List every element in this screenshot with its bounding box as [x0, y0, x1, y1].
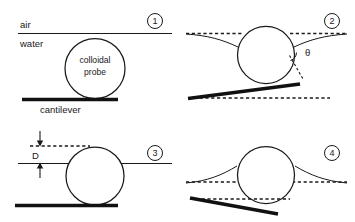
colloidal-probe-figure: air water colloidal probe cantilever 1: [0, 0, 355, 222]
panel-2: θ 2: [186, 14, 347, 99]
panel4-number-text: 4: [329, 148, 334, 158]
panel-4: 4: [186, 146, 347, 215]
panel-3: D 3: [15, 131, 172, 206]
panel3-distance-arrow-top: [37, 131, 43, 147]
panel2-number-badge: 2: [325, 14, 340, 29]
panel2-colloidal-probe-sphere: [238, 27, 295, 84]
panel2-cantilever: [188, 84, 300, 99]
panel4-number-badge: 4: [325, 146, 340, 161]
figure-root: air water colloidal probe cantilever 1: [0, 0, 355, 222]
panel1-probe-label-line2: probe: [84, 67, 106, 77]
panel1-cantilever-label: cantilever: [40, 104, 81, 115]
panel2-meniscus-right: [294, 34, 347, 47]
panel1-air-label: air: [20, 19, 31, 30]
panel4-colloidal-probe-sphere: [238, 147, 295, 204]
panel1-water-label: water: [19, 38, 43, 49]
panel4-meniscus-left: [186, 166, 237, 183]
panel2-meniscus-left: [186, 34, 238, 47]
panel1-number-badge: 1: [148, 14, 163, 29]
panel-1: air water colloidal probe cantilever 1: [18, 14, 172, 116]
panel3-number-text: 3: [152, 148, 157, 158]
panel3-number-badge: 3: [148, 146, 163, 161]
panel1-number-text: 1: [152, 16, 157, 26]
panel1-probe-label-line1: colloidal: [79, 55, 110, 65]
panel2-theta-label: θ: [305, 47, 310, 58]
panel3-distance-arrow-bottom: [37, 163, 43, 179]
panel3-colloidal-probe-sphere: [66, 147, 124, 205]
panel4-meniscus-right: [295, 166, 347, 183]
panel2-number-text: 2: [329, 16, 334, 26]
panel3-distance-label: D: [32, 150, 39, 161]
